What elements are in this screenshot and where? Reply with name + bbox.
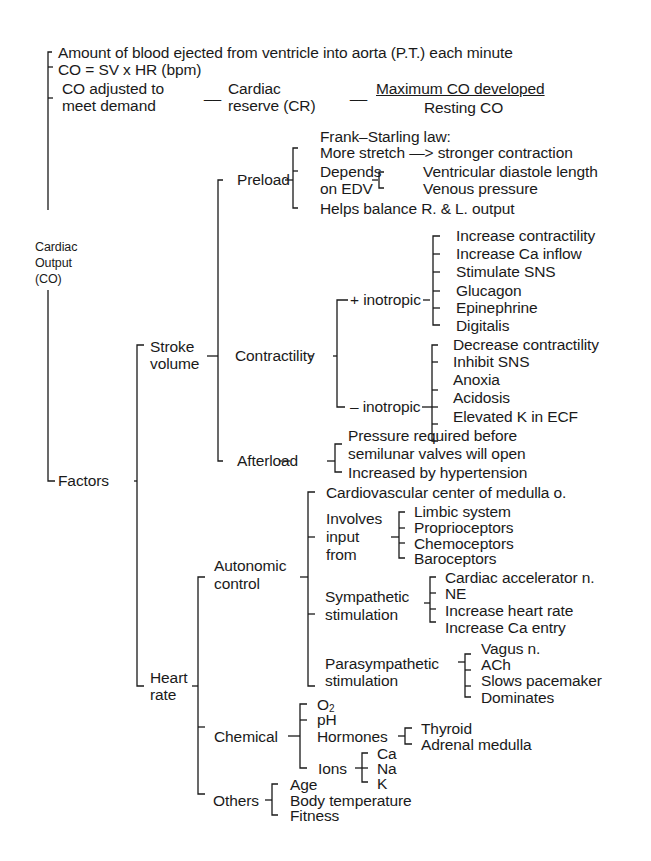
- negative-inotropic-label: – inotropic: [350, 398, 420, 415]
- positive-item-0: Increase contractility: [456, 227, 595, 244]
- positive-item-3: Glucagon: [456, 282, 522, 299]
- afterload-item-2: Increased by hypertension: [348, 464, 527, 481]
- autonomic-label-1: Autonomic: [214, 557, 286, 574]
- cardiac-output-concept-map: Cardiac Output (CO) Amount of blood ejec…: [0, 0, 651, 861]
- preload-label: Preload: [237, 171, 290, 188]
- autonomic-label-2: control: [214, 575, 260, 592]
- chemical-ph: pH: [317, 711, 337, 728]
- negative-item-0: Decrease contractility: [453, 336, 599, 353]
- depends-2: on EDV: [320, 180, 373, 197]
- involves-1: Involves: [326, 510, 382, 527]
- afterload-label: Afterload: [237, 452, 298, 469]
- others-item-2: Fitness: [290, 807, 339, 824]
- positive-inotropic-label: + inotropic: [350, 291, 421, 308]
- root-label-cardiac: Cardiac: [35, 240, 77, 255]
- parasympathetic-item-0: Vagus n.: [481, 640, 540, 657]
- ion-item-2: K: [377, 775, 387, 792]
- parasympathetic-label-2: stimulation: [325, 672, 398, 689]
- factors-label: Factors: [58, 472, 109, 489]
- stroke-volume-label-2: volume: [150, 355, 199, 372]
- sympathetic-item-1: NE: [445, 585, 466, 602]
- hormone-item-0: Thyroid: [421, 720, 472, 737]
- positive-item-4: Epinephrine: [456, 299, 538, 316]
- afterload-item-0: Pressure required before: [348, 427, 517, 444]
- stroke-volume-label-1: Stroke: [150, 338, 194, 355]
- parasympathetic-item-2: Slows pacemaker: [481, 672, 602, 689]
- others-item-0: Age: [290, 776, 317, 793]
- contractility-label: Contractility: [235, 347, 315, 364]
- root-label-output: Output: [35, 256, 72, 271]
- positive-item-1: Increase Ca inflow: [456, 245, 582, 262]
- edv-item-0: Ventricular diastole length: [423, 163, 598, 180]
- cardiac-reserve-1: Cardiac: [228, 80, 281, 97]
- fraction-denominator: Resting CO: [424, 99, 503, 116]
- parasympathetic-item-1: ACh: [481, 656, 511, 673]
- definition-adjusted-1: CO adjusted to: [62, 80, 164, 97]
- definition-formula: CO = SV x HR (bpm): [58, 61, 201, 78]
- sympathetic-item-2: Increase heart rate: [445, 602, 573, 619]
- involves-3: from: [326, 546, 357, 563]
- negative-item-3: Acidosis: [453, 389, 510, 406]
- dash-2: __: [350, 84, 367, 101]
- fraction-numerator: Maximum CO developed: [376, 80, 545, 97]
- chemical-hormones: Hormones: [317, 728, 388, 745]
- chemical-ions: Ions: [318, 760, 347, 777]
- negative-item-2: Anoxia: [453, 371, 500, 388]
- sympathetic-item-0: Cardiac accelerator n.: [445, 569, 594, 586]
- dash-1: __: [204, 84, 221, 101]
- definition-amount: Amount of blood ejected from ventricle i…: [58, 44, 513, 61]
- cardiovascular-center: Cardiovascular center of medulla o.: [326, 484, 566, 501]
- frank-starling: Frank–Starling law:: [320, 128, 451, 145]
- involves-2: input: [326, 528, 359, 545]
- heart-rate-label-1: Heart: [150, 669, 187, 686]
- depends-1: Depends: [320, 163, 381, 180]
- sympathetic-label-1: Sympathetic: [325, 588, 409, 605]
- afterload-item-1: semilunar valves will open: [348, 445, 525, 462]
- more-stretch: More stretch —> stronger contraction: [320, 144, 573, 161]
- sympathetic-item-3: Increase Ca entry: [445, 619, 566, 636]
- negative-item-4: Elevated K in ECF: [453, 408, 578, 425]
- sympathetic-label-2: stimulation: [325, 606, 398, 623]
- negative-item-1: Inhibit SNS: [453, 353, 529, 370]
- others-label: Others: [213, 792, 259, 809]
- cardiac-reserve-2: reserve (CR): [228, 97, 316, 114]
- input-item-1: Proprioceptors: [414, 519, 513, 536]
- positive-item-5: Digitalis: [456, 317, 509, 334]
- heart-rate-label-2: rate: [150, 686, 176, 703]
- input-item-0: Limbic system: [414, 503, 511, 520]
- hormone-item-1: Adrenal medulla: [421, 736, 532, 753]
- edv-item-1: Venous pressure: [423, 180, 538, 197]
- chemical-label: Chemical: [214, 728, 278, 745]
- parasympathetic-item-3: Dominates: [481, 689, 554, 706]
- input-item-3: Baroceptors: [414, 550, 496, 567]
- positive-item-2: Stimulate SNS: [456, 263, 556, 280]
- root-label-co: (CO): [35, 272, 62, 287]
- parasympathetic-label-1: Parasympathetic: [325, 655, 439, 672]
- definition-adjusted-2: meet demand: [62, 97, 156, 114]
- helps-balance: Helps balance R. & L. output: [320, 200, 515, 217]
